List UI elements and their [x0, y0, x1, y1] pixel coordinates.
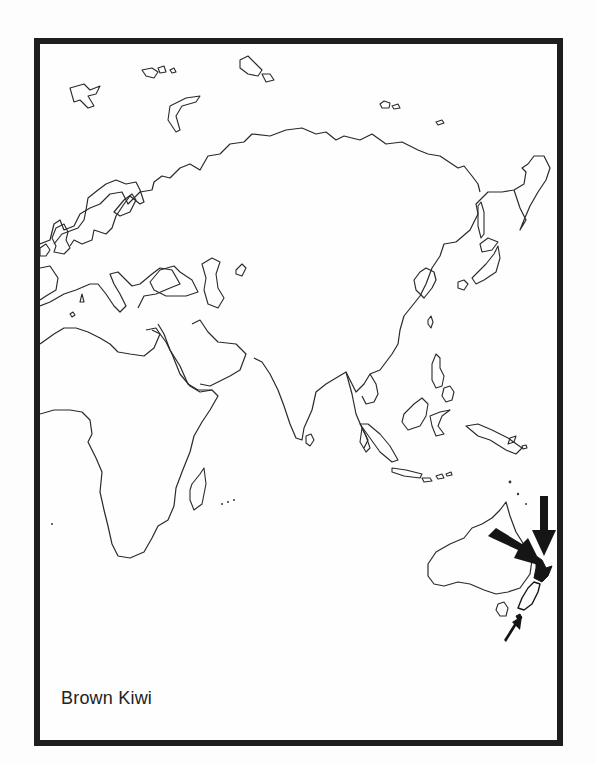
borneo: [402, 398, 428, 430]
arabia: [192, 320, 246, 386]
mediterranean-south: [40, 328, 160, 356]
madagascar: [190, 468, 206, 510]
philippines-south: [442, 386, 454, 402]
sri-lanka: [306, 434, 314, 446]
italy-islands: [70, 294, 84, 317]
hokkaido: [480, 238, 498, 252]
mediterranean-north: [40, 268, 180, 312]
vietnam: [362, 374, 378, 404]
tasmania: [496, 602, 508, 616]
world-map: [40, 44, 557, 740]
arrow-south-icon: [504, 616, 522, 642]
sumatra: [360, 424, 398, 462]
novaya-zemlya: [168, 96, 200, 132]
wrangel: [436, 120, 444, 125]
okhotsk-coast: [456, 164, 528, 242]
sakhalin: [478, 202, 484, 238]
new-guinea: [466, 424, 522, 454]
franz-josef-land: [142, 66, 176, 78]
eurasia-north-coast: [40, 128, 480, 244]
solomons: [508, 436, 527, 449]
china-coast: [336, 242, 456, 392]
aral-sea: [236, 264, 246, 276]
taiwan: [428, 316, 433, 328]
new-siberian-islands: [380, 101, 400, 109]
kyushu: [458, 280, 468, 290]
ireland: [40, 244, 50, 256]
kamchatka: [514, 156, 550, 230]
map-frame: Brown Kiwi: [34, 38, 563, 746]
india: [254, 358, 336, 440]
africa: [40, 330, 218, 558]
caspian-sea: [202, 258, 224, 308]
sulawesi: [430, 410, 450, 436]
svalbard: [70, 84, 100, 108]
arrow-north-icon: [532, 496, 556, 556]
lesser-sunda: [422, 472, 452, 482]
java: [392, 468, 422, 478]
species-label: Brown Kiwi: [61, 688, 152, 709]
iberia-france: [40, 266, 58, 300]
philippines: [432, 354, 444, 388]
korea-japan-mainland: [414, 268, 436, 298]
novaya-zemlya-north: [240, 56, 274, 82]
